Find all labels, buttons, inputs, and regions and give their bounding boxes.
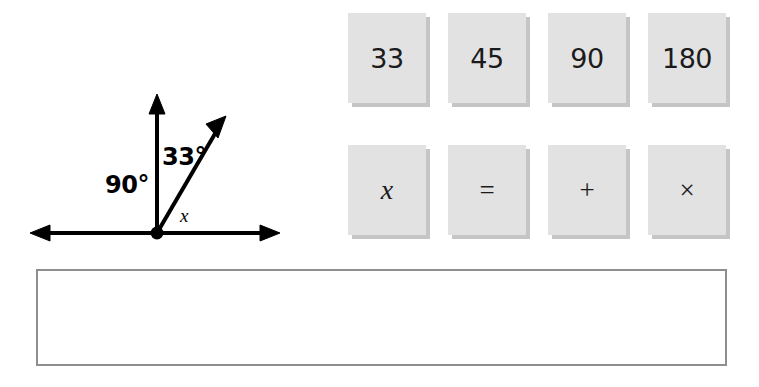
horizontal-line-right-arrowhead xyxy=(260,225,280,241)
tile-equals[interactable]: = xyxy=(448,145,526,235)
answer-tile-bank: 33 45 90 180 x = + × xyxy=(348,13,732,237)
tile-variable-x[interactable]: x xyxy=(348,145,426,235)
vertical-ray-arrowhead xyxy=(149,94,165,114)
tile-45[interactable]: 45 xyxy=(448,13,526,103)
tile-label: x xyxy=(381,174,393,206)
horizontal-line-left-arrowhead xyxy=(30,225,50,241)
answer-drop-zone[interactable] xyxy=(36,269,727,366)
number-tile-row: 33 45 90 180 xyxy=(348,13,732,115)
tile-180[interactable]: 180 xyxy=(648,13,726,103)
exercise-stage: 90° 33° x 33 45 90 180 x = xyxy=(0,0,759,387)
tile-90[interactable]: 90 xyxy=(548,13,626,103)
tile-plus[interactable]: + xyxy=(548,145,626,235)
tile-label: 45 xyxy=(470,43,503,74)
tile-33[interactable]: 33 xyxy=(348,13,426,103)
tile-label: 33 xyxy=(370,43,403,74)
label-given-angle: 33° xyxy=(162,145,206,169)
tile-label: × xyxy=(679,175,694,206)
label-right-angle: 90° xyxy=(105,173,149,197)
diagonal-ray-arrowhead xyxy=(206,116,226,138)
tile-label: 90 xyxy=(570,43,603,74)
tile-label: + xyxy=(579,175,594,206)
label-unknown-angle: x xyxy=(180,206,188,225)
angle-diagram-svg xyxy=(20,80,290,255)
tile-multiply[interactable]: × xyxy=(648,145,726,235)
tile-label: = xyxy=(479,175,494,206)
answer-drop-zone-value xyxy=(38,271,725,364)
vertex-point xyxy=(151,227,164,240)
symbol-tile-row: x = + × xyxy=(348,145,732,247)
tile-label: 180 xyxy=(662,43,712,74)
angle-diagram: 90° 33° x xyxy=(20,80,290,255)
